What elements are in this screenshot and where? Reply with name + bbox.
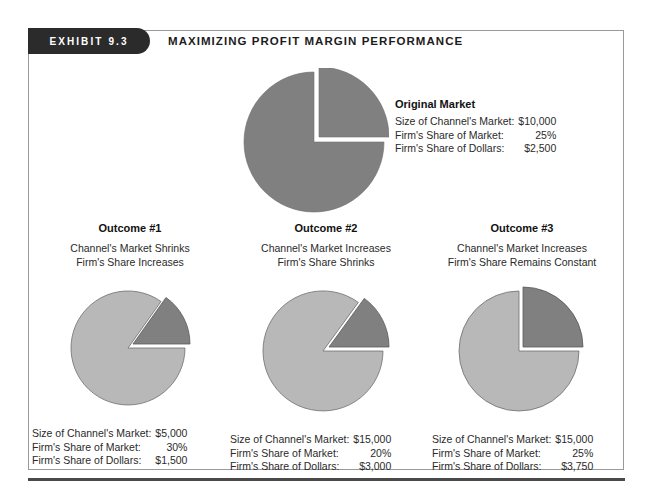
outcome-3-description-line-1: Channel's Market Increases — [424, 241, 620, 255]
table-row: Size of Channel's Market: $5,000 — [32, 427, 187, 441]
outcome-column-2: Outcome #2 Channel's Market Increases Fi… — [228, 222, 424, 474]
outcome-1-table: Size of Channel's Market: $5,000 Firm's … — [32, 427, 187, 468]
label-firms-share-of-market: Firm's Share of Market: — [32, 441, 155, 455]
table-row: Firm's Share of Dollars: $2,500 — [395, 142, 556, 156]
table-row: Firm's Share of Dollars: $3,750 — [432, 460, 593, 474]
outcome-2-description-line-1: Channel's Market Increases — [228, 241, 424, 255]
table-row: Size of Channel's Market: $15,000 — [230, 433, 391, 447]
outcome-2-pie-svg — [261, 285, 391, 413]
exhibit-number-label: EXHIBIT 9.3 — [49, 36, 128, 47]
outcome-1-description: Channel's Market Shrinks Firm's Share In… — [32, 241, 228, 269]
outcome-3-pie-chart — [424, 285, 620, 413]
outcome-column-3: Outcome #3 Channel's Market Increases Fi… — [424, 222, 620, 474]
outcome-1-pie-chart — [32, 285, 228, 407]
table-row: Firm's Share of Market: 25% — [395, 129, 556, 143]
value-firms-share-of-dollars: $3,000 — [353, 460, 391, 474]
exhibit-header: EXHIBIT 9.3 MAXIMIZING PROFIT MARGIN PER… — [28, 28, 624, 54]
outcome-2-description-line-2: Firm's Share Shrinks — [228, 255, 424, 269]
label-firms-share-of-dollars: Firm's Share of Dollars: — [395, 142, 518, 156]
outcome-3-pie-svg — [457, 285, 587, 413]
value-firms-share-of-market: 25% — [518, 129, 556, 143]
value-size-of-channels-market: $10,000 — [518, 115, 556, 129]
label-firms-share-of-dollars: Firm's Share of Dollars: — [32, 454, 155, 468]
table-row: Size of Channel's Market: $10,000 — [395, 115, 556, 129]
label-size-of-channels-market: Size of Channel's Market: — [395, 115, 518, 129]
original-market-info: Original Market Size of Channel's Market… — [395, 98, 615, 156]
value-firms-share-of-dollars: $1,500 — [155, 454, 187, 468]
pie-slice-firm-share — [319, 68, 389, 137]
label-firms-share-of-dollars: Firm's Share of Dollars: — [432, 460, 555, 474]
value-firms-share-of-market: 30% — [155, 441, 187, 455]
outcome-2-description: Channel's Market Increases Firm's Share … — [228, 241, 424, 269]
label-firms-share-of-dollars: Firm's Share of Dollars: — [230, 460, 353, 474]
outcome-3-description: Channel's Market Increases Firm's Share … — [424, 241, 620, 269]
outcome-1-info: Size of Channel's Market: $5,000 Firm's … — [32, 427, 228, 468]
label-size-of-channels-market: Size of Channel's Market: — [432, 433, 555, 447]
table-row: Firm's Share of Market: 25% — [432, 447, 593, 461]
outcome-1-description-line-1: Channel's Market Shrinks — [32, 241, 228, 255]
exhibit-number-tab: EXHIBIT 9.3 — [28, 28, 150, 54]
value-size-of-channels-market: $5,000 — [155, 427, 187, 441]
table-row: Firm's Share of Market: 30% — [32, 441, 187, 455]
table-row: Firm's Share of Dollars: $1,500 — [32, 454, 187, 468]
outcome-2-heading: Outcome #2 — [228, 222, 424, 234]
value-firms-share-of-dollars: $3,750 — [555, 460, 593, 474]
label-size-of-channels-market: Size of Channel's Market: — [32, 427, 155, 441]
outcome-1-pie-svg — [68, 285, 192, 407]
original-market-heading: Original Market — [395, 98, 615, 110]
original-market-pie-svg — [243, 68, 389, 214]
table-row: Size of Channel's Market: $15,000 — [432, 433, 593, 447]
label-size-of-channels-market: Size of Channel's Market: — [230, 433, 353, 447]
label-firms-share-of-market: Firm's Share of Market: — [395, 129, 518, 143]
outcome-column-1: Outcome #1 Channel's Market Shrinks Firm… — [32, 222, 228, 468]
value-firms-share-of-market: 25% — [555, 447, 593, 461]
exhibit-title: MAXIMIZING PROFIT MARGIN PERFORMANCE — [168, 28, 463, 54]
value-size-of-channels-market: $15,000 — [353, 433, 391, 447]
value-firms-share-of-market: 20% — [353, 447, 391, 461]
outcome-3-heading: Outcome #3 — [424, 222, 620, 234]
original-market-pie-chart — [243, 68, 389, 214]
table-row: Firm's Share of Dollars: $3,000 — [230, 460, 391, 474]
outcome-3-info: Size of Channel's Market: $15,000 Firm's… — [424, 433, 620, 474]
bottom-rule — [28, 478, 625, 481]
table-row: Firm's Share of Market: 20% — [230, 447, 391, 461]
outcome-2-pie-chart — [228, 285, 424, 413]
outcome-1-description-line-2: Firm's Share Increases — [32, 255, 228, 269]
value-size-of-channels-market: $15,000 — [555, 433, 593, 447]
outcome-2-info: Size of Channel's Market: $15,000 Firm's… — [228, 433, 424, 474]
outcome-1-heading: Outcome #1 — [32, 222, 228, 234]
outcome-3-description-line-2: Firm's Share Remains Constant — [424, 255, 620, 269]
original-market-table: Size of Channel's Market: $10,000 Firm's… — [395, 115, 556, 156]
label-firms-share-of-market: Firm's Share of Market: — [432, 447, 555, 461]
value-firms-share-of-dollars: $2,500 — [518, 142, 556, 156]
outcome-3-table: Size of Channel's Market: $15,000 Firm's… — [432, 433, 593, 474]
outcome-2-table: Size of Channel's Market: $15,000 Firm's… — [230, 433, 391, 474]
pie-slice-firm-share — [523, 287, 583, 347]
label-firms-share-of-market: Firm's Share of Market: — [230, 447, 353, 461]
